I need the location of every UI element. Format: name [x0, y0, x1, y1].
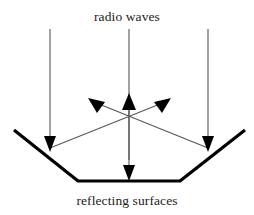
figure-bottom-label: reflecting surfaces — [0, 193, 254, 208]
radio-wave-reflection-figure: radio waves reflecting surfaces — [0, 0, 254, 215]
arrowhead-up-right — [154, 98, 171, 113]
arrowhead-down-right — [202, 136, 214, 152]
reflected-ray-left-to-upper-right — [50, 102, 165, 148]
arrowhead-down-left — [44, 136, 56, 152]
arrowhead-down-center — [123, 165, 135, 181]
reflected-ray-right-to-upper-left — [94, 102, 208, 148]
ray-diagram-canvas — [0, 0, 254, 215]
arrowhead-up-left — [88, 98, 105, 113]
arrowhead-up-center — [122, 93, 136, 110]
